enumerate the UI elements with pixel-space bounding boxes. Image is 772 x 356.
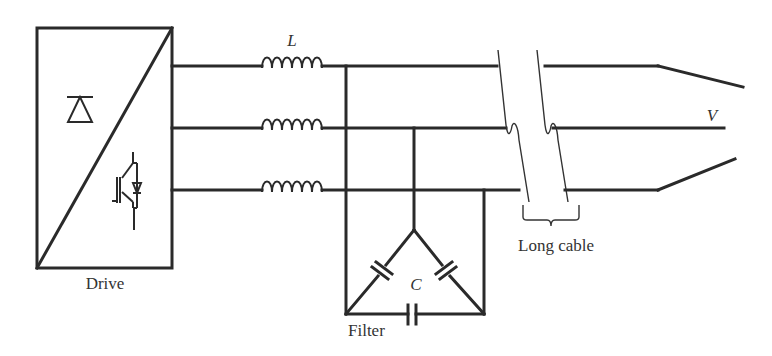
cable-break (498, 50, 568, 202)
drive-diagonal (37, 28, 172, 268)
filter-label: Filter (348, 321, 385, 340)
capacitor-bottom-icon (408, 305, 416, 324)
capacitor-left-icon (372, 262, 392, 279)
circuit-diagram: Drive L (0, 0, 772, 356)
drive-block (37, 28, 172, 268)
voltage-label: V (707, 106, 720, 125)
capacitor-right-icon (436, 262, 456, 279)
igbt-icon (112, 152, 141, 230)
inductor-c-icon (262, 182, 322, 193)
phase-a-terminal (658, 66, 743, 87)
diode-icon (67, 97, 93, 122)
drive-label: Drive (86, 274, 125, 293)
long-cable-label: Long cable (518, 236, 594, 255)
brace-icon (523, 205, 579, 226)
inductor-b-icon (262, 120, 322, 131)
inductor-label: L (286, 31, 296, 50)
capacitor-label: C (410, 275, 422, 294)
inductor-a-icon (262, 58, 322, 69)
phase-c-terminal (658, 159, 735, 190)
